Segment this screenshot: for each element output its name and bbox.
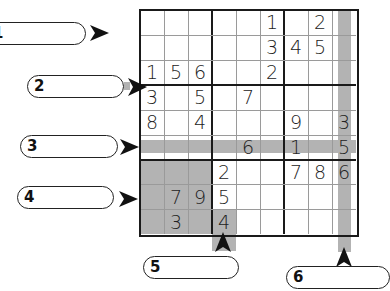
- callout-1-label: 1: [0, 24, 3, 42]
- callout-6-label: 6: [293, 268, 303, 286]
- callout-2-label: 2: [34, 77, 44, 95]
- callout-4-label: 4: [24, 188, 34, 206]
- arrow-right-icon: [128, 78, 148, 96]
- grid-border: [139, 9, 359, 237]
- arrow-right-icon: [120, 139, 140, 155]
- callout-3: 3: [20, 135, 118, 158]
- callout-6: 6: [286, 266, 390, 289]
- arrow-right-icon: [90, 25, 110, 41]
- callout-2: 2: [27, 75, 124, 98]
- arrow-up-icon: [215, 232, 231, 252]
- callout-5: 5: [143, 256, 239, 279]
- callout-4: 4: [17, 186, 114, 209]
- arrow-up-icon: [336, 247, 352, 267]
- callout-1: 1: [0, 22, 86, 45]
- callout-5-label: 5: [150, 258, 160, 276]
- callout-3-label: 3: [27, 137, 37, 155]
- arrow-right-icon: [119, 191, 139, 207]
